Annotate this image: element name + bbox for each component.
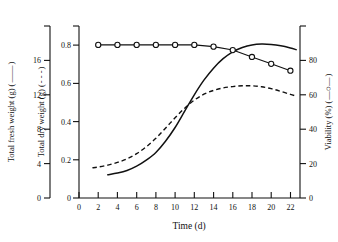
x-tick-18: 18 [248,203,256,212]
data-layer [92,42,296,174]
fresh-tick-16: 16 [33,56,41,65]
series-total-dry-weight [92,86,295,168]
series-viability-markers [96,42,293,73]
dry-weight-axis-title: Total dry weight (g) (- - -) [36,67,46,158]
time-axis: 0 2 4 6 8 10 12 14 16 18 20 22 Time (d) [77,192,300,232]
viability-point-22 [288,68,293,73]
viab-tick-20: 20 [309,160,317,169]
dry-tick-02: 0.2 [61,156,71,165]
viab-axis-label-suffix: ) [323,74,333,77]
viability-point-6 [134,42,139,47]
x-axis-title: Time (d) [172,221,205,232]
x-tick-22: 22 [287,203,295,212]
dry-weight-axis: 0 0.2 0.4 0.6 0.8 Total dry weight (g) (… [36,26,79,203]
viability-point-20 [269,61,274,66]
viability-axis: 0 20 40 60 80 Viability (%) (—○—) [300,26,333,203]
viability-point-16 [230,47,235,52]
dry-axis-label-text: Total dry weight (g) ( [36,84,46,157]
viab-axis-label-text: Viability (%) ( [323,101,333,151]
x-tick-20: 20 [267,203,275,212]
viability-point-14 [211,44,216,49]
viability-point-12 [192,42,197,47]
viab-tick-80: 80 [309,56,317,65]
viab-tick-0: 0 [309,194,313,203]
viab-tick-60: 60 [309,91,317,100]
x-tick-0: 0 [77,203,81,212]
x-tick-12: 12 [190,203,198,212]
x-tick-6: 6 [135,203,139,212]
fresh-tick-4: 4 [37,160,41,169]
dry-axis-label-suffix: ) [36,67,46,70]
fresh-axis-label-suffix: ) [6,62,16,65]
fresh-weight-axis-title: Total fresh weight (g) (——) [6,62,16,163]
viability-point-18 [249,54,254,59]
dry-tick-06: 0.6 [61,79,71,88]
series-viability-line [98,45,290,71]
x-tick-14: 14 [210,203,218,212]
fresh-axis-label-text: Total fresh weight (g) ( [6,83,16,162]
dry-tick-04: 0.4 [61,118,71,127]
viability-point-10 [172,42,177,47]
dry-tick-08: 0.8 [61,41,71,50]
x-tick-2: 2 [96,203,100,212]
dry-tick-0: 0 [67,194,71,203]
x-tick-4: 4 [115,203,119,212]
viability-point-2 [96,42,101,47]
figure-container: 0 4 8 12 16 Total fresh weight (g) (——) … [0,0,338,242]
x-tick-10: 10 [171,203,179,212]
chart-svg: 0 4 8 12 16 Total fresh weight (g) (——) … [0,0,338,242]
x-tick-16: 16 [229,203,237,212]
fresh-tick-0: 0 [37,194,41,203]
viab-tick-40: 40 [309,125,317,134]
viability-point-4 [115,42,120,47]
viability-axis-title: Viability (%) (—○—) [323,74,333,151]
x-tick-8: 8 [154,203,158,212]
series-total-fresh-weight [108,44,296,175]
viability-point-8 [153,42,158,47]
